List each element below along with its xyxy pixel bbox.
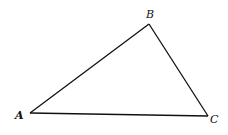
edge-ab <box>30 24 149 113</box>
vertex-label-b: B <box>145 8 154 21</box>
vertex-label-c: C <box>210 113 219 126</box>
triangle-diagram: A B C <box>0 0 228 135</box>
edge-bc <box>149 24 208 116</box>
vertex-label-a: A <box>14 109 24 122</box>
edge-ac <box>30 113 208 116</box>
